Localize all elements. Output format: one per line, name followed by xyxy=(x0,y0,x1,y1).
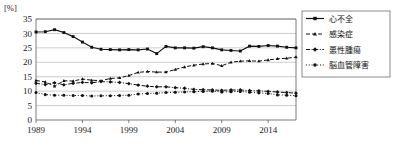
data-point xyxy=(81,41,84,44)
chart-legend: 心不全感染症悪性腫瘍脳血管障害 xyxy=(302,11,390,77)
data-point xyxy=(127,82,131,86)
data-point xyxy=(285,46,288,49)
data-point xyxy=(62,31,65,34)
data-point xyxy=(35,31,38,34)
x-axis-ticks: 198919941999200420092014 xyxy=(27,120,278,135)
data-point xyxy=(146,92,149,95)
data-point xyxy=(146,84,150,88)
data-point xyxy=(267,92,270,95)
data-point xyxy=(257,91,260,94)
data-point xyxy=(53,28,56,31)
data-point xyxy=(53,81,57,85)
y-tick-label: 10 xyxy=(23,86,33,96)
data-point xyxy=(34,91,37,94)
data-point xyxy=(294,94,297,97)
data-point xyxy=(34,81,38,85)
data-point xyxy=(155,52,158,55)
data-point xyxy=(174,91,177,94)
data-point xyxy=(183,65,186,68)
data-point xyxy=(146,48,149,51)
data-point xyxy=(257,45,260,48)
legend-marker xyxy=(313,17,316,20)
data-point xyxy=(155,85,159,89)
line-chart: 05101520253035 198919941999200420092014 … xyxy=(0,0,397,152)
y-tick-label: 5 xyxy=(28,101,33,111)
y-tick-label: 0 xyxy=(28,115,33,125)
y-axis-unit-label: [%] xyxy=(4,3,17,13)
y-axis-ticks: 05101520253035 xyxy=(23,14,33,125)
legend-label: 心不全 xyxy=(329,14,353,24)
data-point xyxy=(81,94,84,97)
x-tick-label: 2014 xyxy=(259,125,278,135)
data-point xyxy=(53,94,56,97)
data-point xyxy=(239,90,242,93)
legend-label: 悪性腫瘍 xyxy=(329,45,361,55)
data-point xyxy=(109,48,112,51)
data-point xyxy=(239,50,242,53)
data-point xyxy=(174,46,177,49)
y-tick-label: 15 xyxy=(23,72,33,82)
data-point xyxy=(220,48,223,51)
legend-label: 脳血管障害 xyxy=(329,60,369,70)
data-point xyxy=(202,45,205,48)
data-point xyxy=(229,90,232,93)
data-point xyxy=(183,46,186,49)
data-point xyxy=(137,48,140,51)
y-tick-label: 25 xyxy=(23,43,33,53)
data-point xyxy=(72,94,75,97)
plot-frame xyxy=(36,19,296,120)
data-point xyxy=(109,94,112,97)
data-point xyxy=(295,46,298,49)
data-point xyxy=(137,93,140,96)
x-tick-label: 1999 xyxy=(120,125,139,135)
data-point xyxy=(192,47,195,50)
data-point xyxy=(155,92,158,95)
data-point xyxy=(118,48,121,51)
x-tick-label: 1989 xyxy=(27,125,46,135)
data-point xyxy=(183,86,187,90)
data-point xyxy=(81,81,85,85)
data-point xyxy=(43,83,47,87)
series-1 xyxy=(35,28,298,55)
data-point xyxy=(276,90,280,94)
data-point xyxy=(90,95,93,98)
data-point xyxy=(211,90,214,93)
data-point xyxy=(108,80,112,84)
data-point xyxy=(100,48,103,51)
data-point xyxy=(183,90,186,93)
data-point xyxy=(99,94,102,97)
data-point xyxy=(90,46,93,49)
data-point xyxy=(62,94,65,97)
data-point xyxy=(248,91,251,94)
data-point xyxy=(220,90,223,93)
y-tick-label: 30 xyxy=(23,29,33,39)
data-point xyxy=(248,45,251,48)
data-point xyxy=(211,46,214,49)
data-point xyxy=(276,93,279,96)
legend-marker xyxy=(313,63,317,67)
data-point xyxy=(136,83,140,87)
data-point xyxy=(285,94,288,97)
data-point xyxy=(90,81,94,85)
data-point xyxy=(44,93,47,96)
data-point xyxy=(44,30,47,33)
data-point xyxy=(192,90,195,93)
y-tick-label: 20 xyxy=(23,57,33,67)
y-tick-label: 35 xyxy=(23,14,33,24)
data-point xyxy=(164,91,167,94)
data-point xyxy=(127,94,130,97)
data-point xyxy=(62,83,66,87)
data-point xyxy=(127,48,130,51)
data-point xyxy=(230,49,233,52)
data-point xyxy=(173,86,177,90)
x-tick-label: 2009 xyxy=(213,125,232,135)
data-point xyxy=(276,45,279,48)
data-point xyxy=(164,85,168,89)
data-point xyxy=(267,44,270,47)
data-point xyxy=(165,45,168,48)
legend-label: 感染症 xyxy=(329,29,353,39)
x-tick-label: 2004 xyxy=(166,125,185,135)
data-point xyxy=(136,71,139,74)
data-point xyxy=(118,81,122,85)
chart-container: 05101520253035 198919941999200420092014 … xyxy=(0,0,397,152)
